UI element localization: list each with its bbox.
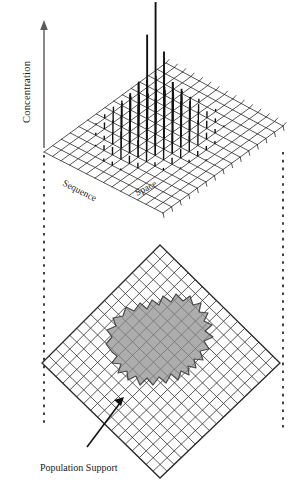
population-support-region-group — [106, 294, 213, 385]
space-axis-label: Space — [133, 179, 158, 198]
population-support-label: Population Support — [40, 462, 118, 473]
population-support-region — [106, 294, 213, 385]
concentration-axis — [40, 20, 48, 148]
axis-arrowhead-icon — [40, 20, 48, 30]
sequence-axis-label: Sequence — [61, 178, 98, 203]
top-panel-3d-stem-plot: Concentration Sequence Space — [21, 2, 286, 217]
figure-root: Concentration Sequence Space — [0, 0, 295, 503]
population-support-callout — [87, 397, 124, 447]
concentration-axis-label: Concentration — [21, 60, 32, 123]
scientific-figure: Concentration Sequence Space — [0, 0, 295, 503]
bottom-panel-support-map: Population Support — [40, 245, 280, 478]
